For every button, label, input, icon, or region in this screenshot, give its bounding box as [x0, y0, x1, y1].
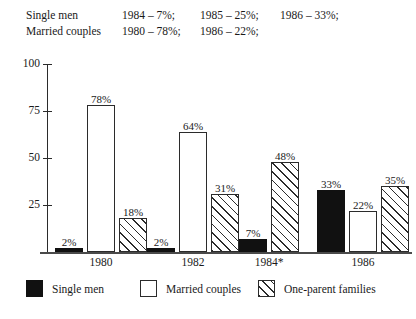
x-axis-group-label: 1980 — [90, 256, 113, 269]
bar-value-label: 7% — [246, 227, 261, 239]
x-axis-group-label: 1986 — [352, 256, 375, 269]
note-row-label: Single men — [26, 7, 122, 23]
bar-value-label: 18% — [123, 206, 143, 218]
y-axis-tick-label: 25 — [0, 199, 40, 211]
note-item: 1985 – 25%; — [200, 7, 280, 23]
y-axis-tick-text: 100 — [2, 58, 40, 70]
bar-value-label: 48% — [275, 150, 295, 162]
legend-swatch-icon — [258, 280, 275, 297]
y-axis-tick-label: 50 — [0, 152, 40, 164]
note-item: 1984 – 7%; — [122, 7, 200, 23]
x-axis-group-label: 1984* — [255, 256, 284, 269]
bar-value-label: 2% — [154, 236, 169, 248]
bar: 2% — [147, 248, 175, 252]
y-axis-tick-text: 25 — [2, 199, 40, 211]
y-axis-tick — [43, 205, 52, 206]
bar: 22% — [349, 211, 377, 252]
bar: 35% — [381, 186, 409, 252]
chart-page: Single men 1984 – 7%; 1985 – 25%; 1986 –… — [0, 0, 416, 319]
y-axis-tick-text: 75 — [2, 105, 40, 117]
legend-item[interactable]: One-parent families — [258, 280, 376, 297]
bar-value-label: 64% — [183, 120, 203, 132]
bar: 18% — [119, 218, 147, 252]
legend-label: Single men — [52, 282, 104, 296]
bar-value-label: 78% — [91, 93, 111, 105]
bar: 33% — [317, 190, 345, 252]
note-item: 1986 – 33%; — [280, 7, 360, 23]
y-axis-tick — [43, 111, 52, 112]
legend-swatch-icon — [140, 280, 157, 297]
legend-label: One-parent families — [284, 282, 376, 296]
legend-item[interactable]: Married couples — [140, 280, 241, 297]
y-axis-tick-text: 50 — [2, 152, 40, 164]
bar-value-label: 22% — [353, 199, 373, 211]
bar-chart: 100755025 2%78%18%2%64%31%7%48%33%22%35%… — [0, 52, 416, 267]
bar: 31% — [211, 194, 239, 252]
y-axis-tick — [43, 64, 52, 65]
bar: 2% — [55, 248, 83, 252]
legend-item[interactable]: Single men — [26, 280, 104, 297]
bar: 48% — [271, 162, 299, 252]
y-axis-tick-label: 75 — [0, 105, 40, 117]
note-row: Single men 1984 – 7%; 1985 – 25%; 1986 –… — [26, 7, 406, 23]
x-axis-group-label: 1982 — [182, 256, 205, 269]
bar: 78% — [87, 105, 115, 252]
header-note: Single men 1984 – 7%; 1985 – 25%; 1986 –… — [26, 7, 406, 39]
y-axis-tick — [43, 158, 52, 159]
note-item: 1980 – 78%; — [122, 23, 200, 39]
note-row-label: Married couples — [26, 23, 122, 39]
bar-value-label: 2% — [62, 236, 77, 248]
bar: 7% — [239, 239, 267, 252]
bar-value-label: 33% — [321, 178, 341, 190]
bar-value-label: 31% — [215, 182, 235, 194]
bar: 64% — [179, 132, 207, 252]
x-axis-line — [40, 252, 412, 254]
legend-label: Married couples — [166, 282, 241, 296]
note-item: 1986 – 22%; — [200, 23, 280, 39]
legend-swatch-icon — [26, 280, 43, 297]
note-row: Married couples 1980 – 78%; 1986 – 22%; — [26, 23, 406, 39]
chart-legend: Single menMarried couplesOne-parent fami… — [0, 280, 416, 304]
y-axis-line — [47, 64, 48, 254]
y-axis-tick-label: 100 — [0, 58, 40, 70]
bar-value-label: 35% — [385, 174, 405, 186]
